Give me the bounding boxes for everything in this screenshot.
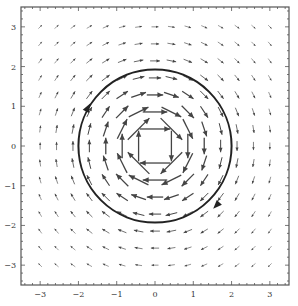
y-axis-ticks: −3−2−10123 — [4, 11, 289, 281]
field-arrowhead — [105, 106, 109, 111]
field-arrowhead — [55, 176, 57, 179]
field-arrowhead — [140, 59, 144, 62]
field-arrowhead — [252, 164, 255, 167]
vector-field-arrows — [38, 25, 271, 267]
field-arrowhead — [151, 264, 153, 266]
field-arrowhead — [201, 164, 206, 170]
circle-curve — [78, 69, 231, 222]
y-tick-label: −3 — [4, 261, 16, 270]
field-arrowhead — [185, 152, 190, 158]
field-arrowhead — [71, 141, 74, 144]
field-arrowhead — [134, 229, 138, 232]
x-tick-label: 0 — [152, 290, 157, 299]
field-arrowhead — [167, 247, 170, 250]
field-arrowhead — [157, 76, 161, 80]
field-arrowhead — [119, 134, 124, 140]
field-arrowhead — [56, 108, 58, 111]
field-arrowhead — [173, 93, 179, 98]
x-tick-label: 3 — [267, 290, 272, 299]
field-arrowhead — [117, 193, 122, 197]
field-arrowhead — [131, 194, 137, 199]
curve-direction-arrow — [83, 104, 90, 114]
field-arrowhead — [147, 194, 153, 199]
field-arrowhead — [252, 147, 255, 150]
field-arrowhead — [253, 78, 255, 81]
field-arrowhead — [71, 158, 74, 162]
field-arrowhead — [123, 91, 128, 95]
field-arrowhead — [157, 92, 163, 97]
x-tick-label: −2 — [73, 290, 85, 299]
field-arrowhead — [269, 147, 271, 149]
field-arrowhead — [103, 156, 108, 162]
field-arrowhead — [150, 230, 153, 233]
field-arrowhead — [203, 130, 208, 136]
field-arrowhead — [204, 112, 208, 117]
field-arrowhead — [87, 140, 91, 144]
field-arrowhead — [182, 196, 187, 200]
y-tick-label: −2 — [4, 221, 16, 230]
field-arrowhead — [202, 148, 207, 154]
field-arrowhead — [218, 248, 221, 250]
field-arrowhead — [72, 124, 75, 128]
field-arrowhead — [235, 147, 238, 150]
field-arrowhead — [151, 247, 154, 250]
field-arrowhead — [156, 26, 158, 28]
circle-path — [78, 69, 231, 222]
field-arrowhead — [102, 174, 106, 179]
field-arrowhead — [39, 142, 41, 144]
field-arrowhead — [55, 142, 58, 145]
field-arrowhead — [252, 214, 254, 217]
field-arrowhead — [167, 230, 171, 233]
field-arrowhead — [56, 75, 58, 78]
field-arrowhead — [87, 246, 90, 248]
field-arrowhead — [55, 159, 58, 162]
field-arrowhead — [236, 130, 239, 134]
field-arrowhead — [188, 94, 193, 98]
field-arrowhead — [123, 42, 126, 44]
field-arrowhead — [200, 181, 204, 186]
field-arrowhead — [156, 43, 159, 46]
field-arrowhead — [156, 59, 159, 62]
y-tick-label: 0 — [11, 142, 16, 151]
field-arrowhead — [103, 138, 108, 144]
field-arrowhead — [173, 60, 177, 63]
field-arrowhead — [172, 43, 175, 46]
field-arrowhead — [135, 247, 138, 250]
field-arrowhead — [235, 164, 238, 168]
field-arrowhead — [118, 247, 121, 249]
y-tick-label: 1 — [11, 102, 16, 111]
field-arrowhead — [140, 42, 143, 45]
plot-border — [21, 7, 289, 285]
field-arrowhead — [184, 247, 187, 249]
x-tick-label: −1 — [111, 290, 123, 299]
field-arrowhead — [189, 43, 192, 45]
curve-direction-arrow — [213, 200, 222, 209]
field-arrowhead — [55, 125, 58, 128]
x-axis-ticks: −3−2−10123 — [25, 7, 285, 299]
plot-frame — [21, 7, 289, 285]
y-tick-label: 3 — [11, 23, 16, 32]
x-tick-label: 2 — [229, 290, 234, 299]
field-arrowhead — [55, 211, 57, 214]
x-tick-label: −3 — [34, 290, 46, 299]
field-arrowhead — [140, 92, 146, 97]
field-arrowhead — [252, 181, 254, 184]
vector-field-plot: −3−2−10123 −3−2−10123 — [0, 0, 298, 306]
field-arrowhead — [149, 212, 153, 216]
field-arrowhead — [219, 148, 223, 152]
y-tick-label: 2 — [11, 63, 16, 72]
field-arrowhead — [253, 113, 255, 116]
field-arrowhead — [90, 42, 93, 44]
field-arrowhead — [252, 130, 255, 133]
field-arrowhead — [164, 195, 170, 200]
y-tick-label: −1 — [4, 182, 16, 191]
x-tick-label: 1 — [191, 290, 196, 299]
field-arrowhead — [221, 44, 224, 46]
field-arrowhead — [104, 122, 109, 128]
